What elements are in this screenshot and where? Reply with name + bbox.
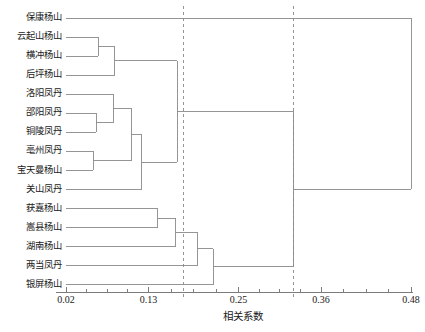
cluster-link [66, 232, 197, 265]
leaf-label-group: 保康杨山云起山杨山横冲杨山后坪杨山洛阳凤丹邵阳凤丹铜陵凤丹亳州凤丹宝天曼杨山关山… [17, 11, 62, 289]
leaf-label: 嵩县杨山 [26, 221, 62, 232]
leaf-label: 亳州凤丹 [26, 144, 62, 155]
leaf-label: 后坪杨山 [26, 68, 62, 79]
x-axis-tick-label: 0.25 [230, 294, 248, 305]
leaf-label: 云起山杨山 [17, 30, 62, 41]
leaf-label: 铜陵凤丹 [26, 125, 62, 136]
cluster-link [66, 209, 158, 228]
leaf-label: 获嘉杨山 [26, 202, 62, 213]
leaf-label: 宝天曼杨山 [17, 164, 62, 175]
leaf-label: 保康杨山 [26, 11, 62, 22]
x-axis-tick-label: 0.36 [312, 294, 330, 305]
cluster-link [66, 218, 176, 247]
cut-line-group [184, 6, 294, 298]
cluster-link [177, 111, 293, 266]
leaf-label: 邵阳凤丹 [26, 107, 62, 117]
leaf-label: 洛阳凤丹 [26, 87, 62, 98]
x-axis-title: 相关系数 [223, 310, 264, 322]
dendrogram-plot-area: 保康杨山云起山杨山横冲杨山后坪杨山洛阳凤丹邵阳凤丹铜陵凤丹亳州凤丹宝天曼杨山关山… [0, 0, 425, 332]
cluster-link [66, 249, 213, 285]
leaf-label: 湖南杨山 [26, 240, 62, 251]
leaf-label: 横冲杨山 [26, 49, 62, 60]
leaf-label: 两当凤丹 [26, 259, 62, 270]
cluster-link [66, 151, 93, 170]
cluster-link [66, 37, 98, 56]
x-axis-tick-label: 0.48 [402, 294, 420, 305]
dendrogram-chart: 保康杨山云起山杨山横冲杨山后坪杨山洛阳凤丹邵阳凤丹铜陵凤丹亳州凤丹宝天曼杨山关山… [0, 0, 425, 332]
leaf-label: 银屏杨山 [26, 278, 62, 289]
cluster-link [66, 135, 142, 190]
cluster-link [93, 108, 131, 160]
cluster-link-group [66, 18, 411, 285]
cluster-link [66, 47, 115, 76]
cluster-link [66, 94, 113, 123]
x-axis-tick-label: 0.13 [140, 294, 158, 305]
cluster-link [66, 113, 96, 132]
leaf-label: 关山凤丹 [26, 183, 62, 194]
cluster-link [66, 18, 411, 189]
cluster-link [115, 61, 177, 162]
x-axis-tick-label: 0.02 [57, 294, 75, 305]
x-axis: 0.020.130.250.360.48 [56, 287, 420, 305]
